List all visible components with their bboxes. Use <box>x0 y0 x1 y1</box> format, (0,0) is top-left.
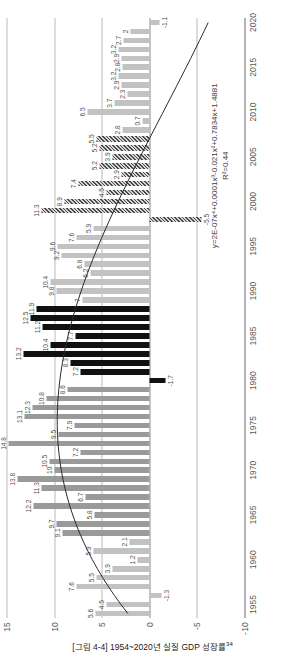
x-tick-label: 1970 <box>247 461 257 480</box>
x-tick-label: 1990 <box>247 282 257 301</box>
y-tick-label: 0 <box>144 622 154 627</box>
x-tick-label: 1975 <box>247 416 257 435</box>
y-tick-label: 10 <box>49 622 59 632</box>
trendline-equation: y=2E-07x⁴+0.0001x³-0.021x²+0.7834x+1.488… <box>208 83 231 248</box>
r-squared-text: R²=0.44 <box>219 83 231 248</box>
x-tick-label: 1965 <box>247 506 257 525</box>
x-tick-label: 1985 <box>247 326 257 345</box>
x-tick-label: 2020 <box>247 13 257 32</box>
y-tick-label: -5 <box>191 622 201 630</box>
x-tick-label: 2010 <box>247 103 257 122</box>
x-axis-labels: 1955196019651970197519801985199019952000… <box>247 18 265 618</box>
x-tick-label: 1955 <box>247 595 257 614</box>
x-tick-label: 2000 <box>247 192 257 211</box>
x-tick-label: 1980 <box>247 371 257 390</box>
y-tick-label: -10 <box>239 622 249 635</box>
figure-caption: [그림 4-4] 1954~2020년 실질 GDP 성장률34 <box>0 640 305 652</box>
caption-text: [그림 4-4] 1954~2020년 실질 GDP 성장률 <box>72 642 226 652</box>
chart-canvas: 151050-5-10 5.64.5-1.37.65.53.91.25.92.1… <box>0 0 305 652</box>
bar-value-label: 14.8 <box>0 437 6 450</box>
y-tick-label: 5 <box>96 622 106 627</box>
y-tick-label: 15 <box>1 622 11 632</box>
x-tick-label: 2005 <box>247 147 257 166</box>
equation-text: y=2E-07x⁴+0.0001x³-0.021x²+0.7834x+1.488… <box>209 83 218 248</box>
chart-page: 151050-5-10 5.64.5-1.37.65.53.91.25.92.1… <box>0 0 305 652</box>
x-tick-label: 2015 <box>247 58 257 77</box>
x-tick-label: 1960 <box>247 550 257 569</box>
x-tick-label: 1995 <box>247 237 257 256</box>
caption-footnote: 34 <box>226 641 233 647</box>
x-axis-line <box>244 18 245 618</box>
